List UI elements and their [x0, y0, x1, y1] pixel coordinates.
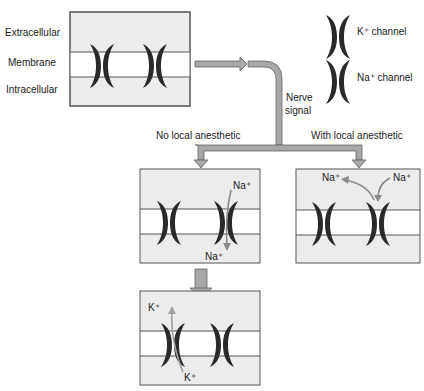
membrane-box-with-anesthetic: [296, 169, 420, 263]
legend-na-channel-icon: [326, 60, 350, 104]
na-ion-right-with-anesthetic: Na⁺: [393, 172, 411, 183]
no-anesthetic-label: No local anesthetic: [156, 130, 241, 141]
nerve-signal-label-1: Nerve: [286, 92, 313, 103]
na-ion-top-no-anesthetic: Na⁺: [233, 180, 251, 191]
arrow-down-icon: [352, 160, 366, 168]
with-anesthetic-label: With local anesthetic: [311, 130, 403, 141]
nerve-signal-label-2: signal: [285, 105, 311, 116]
legend-na-channel-label: Na⁺ channel: [357, 72, 413, 83]
membrane-box-initial: [70, 12, 190, 106]
label-extracellular: Extracellular: [5, 27, 60, 38]
label-intracellular: Intracellular: [6, 84, 58, 95]
arrow-down-icon: [194, 160, 208, 168]
k-ion-top: K⁺: [148, 302, 160, 313]
legend-k-channel-label: K⁺ channel: [357, 26, 406, 37]
legend-k-channel-icon: [326, 15, 350, 59]
na-ion-bottom-no-anesthetic: Na⁺: [205, 251, 223, 262]
diagram-canvas: [0, 0, 424, 391]
label-membrane: Membrane: [8, 57, 56, 68]
k-ion-bottom: K⁺: [184, 372, 196, 383]
na-ion-left-with-anesthetic: Na⁺: [322, 172, 340, 183]
